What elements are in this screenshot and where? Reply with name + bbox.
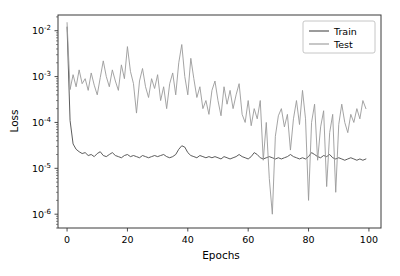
x-tick-label: 80 [303,234,315,245]
x-tick-label: 100 [360,234,378,245]
x-tick-label: 20 [121,234,133,245]
legend-label-test: Test [333,39,353,50]
legend-label-train: Train [333,26,357,37]
y-axis-title: Loss [8,109,20,132]
x-tick-label: 0 [64,234,70,245]
x-tick-label: 60 [242,234,254,245]
chart-legend[interactable]: TrainTest [303,21,375,53]
x-axis-title: Epochs [202,249,240,261]
figure-container: 10-210-310-410-510-6 020406080100 Loss E… [0,0,400,276]
loss-curve-chart: 10-210-310-410-510-6 020406080100 Loss E… [0,0,400,276]
x-tick-label: 40 [182,234,194,245]
